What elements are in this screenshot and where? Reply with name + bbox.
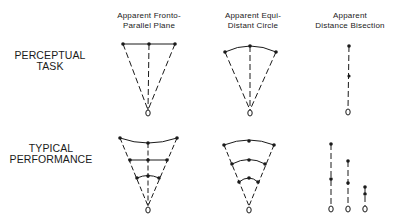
eye-icon [329,206,333,212]
eye-icon [346,206,350,212]
panel-task-bisection [346,44,351,115]
eye-icon [247,207,251,213]
eye-icon [248,110,252,116]
panel-performance-fronto-parallel [118,136,179,213]
sight-lines [120,138,177,206]
sight-lines [225,46,276,110]
sight-lines [331,144,365,206]
diagram-canvas [0,0,403,222]
sight-lines [123,44,175,110]
eye-icon [146,110,150,116]
eye-icon [346,109,350,115]
panel-performance-bisection [329,142,367,212]
panel-task-fronto-parallel [121,42,177,116]
eye-icon [363,206,367,212]
panel-task-equi-distant [223,44,278,116]
eye-icon [146,207,150,213]
panel-performance-equi-distant [222,139,276,213]
sight-lines [224,145,274,206]
target-points [329,142,367,196]
